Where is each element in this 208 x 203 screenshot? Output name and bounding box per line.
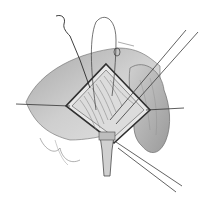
tube [100,136,114,176]
illustration-svg [0,0,208,203]
instrument-shaft-4 [118,148,176,192]
surgical-illustration [0,0,208,203]
